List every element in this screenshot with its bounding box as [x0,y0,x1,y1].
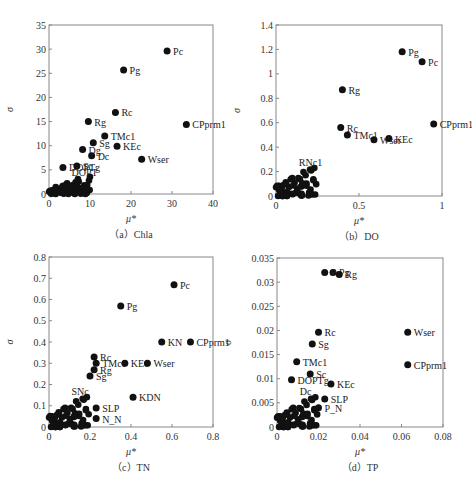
point-label: Rc [325,327,337,338]
data-point [285,424,292,431]
data-point [282,412,289,419]
x-axis-label: μ* [354,446,365,457]
data-point [315,329,322,336]
point-label: Sg [318,339,329,350]
data-point [275,413,282,420]
data-point [301,398,308,405]
data-point [300,410,307,417]
y-tick-label: 0.005 [252,397,275,408]
x-tick-label: 0.06 [393,431,411,442]
y-tick-label: 0.03 [257,277,275,288]
data-point [309,340,316,347]
y-axis-label: σ [222,339,233,345]
data-point [291,413,298,420]
data-point [308,417,315,424]
point-label: CPprm1 [414,360,447,371]
x-tick-label: 0 [275,431,280,442]
y-tick-label: 0.01 [257,373,275,384]
point-label: KEc [337,379,355,390]
data-point [321,395,328,402]
x-tick-label: 0.08 [434,431,452,442]
data-point [327,381,334,388]
y-tick-label: 0.02 [257,325,275,336]
panel-d-tp: 00.020.040.060.0800.0050.010.0150.020.02… [0,0,472,488]
point-label: DOPTg [298,375,329,386]
data-point [336,271,343,278]
point-label: Dc [300,386,312,397]
data-point [300,423,307,430]
data-point [293,358,300,365]
y-tick-label: 0.015 [252,349,275,360]
panel-caption: （d）TP [300,459,420,474]
point-label: P_N [325,403,343,414]
data-point [290,422,297,429]
data-point [315,404,322,411]
y-tick-label: 0 [269,422,274,433]
point-label: Wser [414,327,436,338]
y-tick-label: 0.035 [252,253,275,264]
x-tick-label: 0.02 [310,431,328,442]
y-tick-label: 0.025 [252,301,275,312]
point-label: TMc1 [303,357,327,368]
x-tick-label: 0.04 [351,431,369,442]
data-point [321,269,328,276]
data-point [404,329,411,336]
data-point [288,376,295,383]
point-label: Rg [345,269,357,280]
scatter-plot-tp: 00.020.040.060.0800.0050.010.0150.020.02… [0,0,472,488]
data-point [404,361,411,368]
data-point [307,422,314,429]
